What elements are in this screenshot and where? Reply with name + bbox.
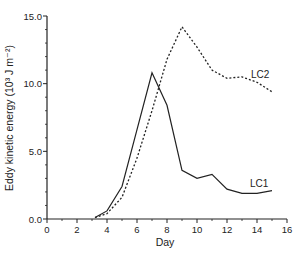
x-tick-label: 12 — [222, 224, 233, 235]
series-line-lc1 — [95, 73, 272, 218]
y-ticks: 0.05.010.015.0 — [24, 11, 48, 225]
y-tick-label: 15.0 — [24, 11, 43, 22]
y-tick-label: 0.0 — [29, 214, 42, 225]
x-tick-label: 4 — [104, 224, 109, 235]
series-lines — [95, 27, 272, 218]
y-tick-label: 10.0 — [24, 78, 43, 89]
series-label-lc1: LC1 — [250, 178, 269, 189]
y-axis-title: Eddy kinetic energy (10³ J m⁻²) — [3, 45, 15, 191]
x-tick-label: 0 — [44, 224, 49, 235]
x-ticks: 0246810121416 — [44, 219, 292, 235]
x-tick-label: 14 — [252, 224, 263, 235]
eddy-energy-chart: 0.05.010.015.0 0246810121416 Day Eddy ki… — [0, 0, 294, 255]
series-label-lc2: LC2 — [251, 69, 270, 80]
x-tick-label: 16 — [282, 224, 293, 235]
x-axis-title: Day — [156, 236, 175, 248]
series-line-lc2 — [95, 27, 272, 218]
y-tick-label: 5.0 — [29, 146, 42, 157]
x-tick-label: 8 — [164, 224, 169, 235]
axes: 0.05.010.015.0 0246810121416 — [24, 11, 293, 236]
x-tick-label: 10 — [192, 224, 203, 235]
x-tick-label: 2 — [74, 224, 79, 235]
x-tick-label: 6 — [134, 224, 139, 235]
